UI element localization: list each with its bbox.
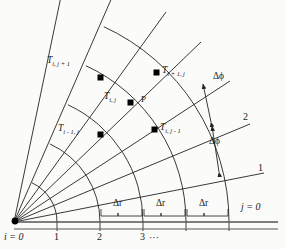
brace-delta-r-2 — [144, 209, 185, 216]
delta-phi-arrows — [203, 84, 219, 172]
label-t-iminus1-j-sub: i - 1, j — [63, 128, 78, 135]
node-dot-t-iplus1-j — [154, 70, 160, 76]
label-t-i-j-sub: i, j — [109, 96, 116, 103]
radial-label-2: 2 — [243, 112, 248, 122]
delta-r-label-2: Δr — [156, 199, 165, 209]
delta-r-label-1: Δr — [113, 199, 122, 209]
radial-line-j7 — [14, 0, 64, 222]
label-t-i-jminus1-sub: i, j - 1 — [165, 127, 180, 134]
delta-r-braces — [101, 209, 228, 216]
i-axis-ticks — [57, 222, 229, 231]
i-axis-ellipsis: ··· — [149, 233, 159, 243]
delta-phi-arrow-upper — [203, 84, 211, 122]
label-t-iminus1-j: Ti - 1, j — [58, 124, 79, 135]
label-t-iplus1-j: Ti + 1, j — [162, 66, 185, 77]
label-t-i-jplus1-sub: i, j + 1 — [52, 60, 70, 67]
brace-delta-r-1 — [101, 209, 142, 216]
delta-phi-upper-label: Δϕ — [213, 72, 224, 82]
label-t-i-jplus1: Ti, j + 1 — [47, 56, 70, 67]
node-dot-t-i-jplus1 — [98, 75, 104, 81]
origin-vertex — [12, 218, 19, 225]
j-axis-label-text: j = 0 — [241, 201, 261, 212]
i-axis-tick-label-1: 1 — [54, 232, 59, 242]
label-point-p: P — [141, 95, 146, 104]
node-dot-t-i-j — [128, 100, 134, 106]
i-axis-tick-label-2: 2 — [97, 232, 102, 242]
radial-label-1: 1 — [258, 163, 263, 173]
polar-grid-figure: Ti, j + 1 Ti + 1, j Ti, j Ti - 1, j Ti, … — [0, 0, 285, 249]
delta-phi-arrow-lower — [212, 126, 219, 172]
node-dot-t-iminus1-j — [98, 132, 104, 138]
label-t-i-j: Ti, j — [104, 92, 116, 103]
baseline-axis — [14, 222, 278, 231]
delta-phi-lower-label: Δϕ — [209, 137, 220, 147]
brace-delta-r-3 — [187, 209, 228, 216]
label-t-iplus1-j-sub: i + 1, j — [167, 70, 185, 77]
radial-line-j6 — [14, 0, 113, 222]
i-axis-tick-label-3: 3 — [140, 232, 145, 242]
label-t-i-jminus1: Ti, j - 1 — [160, 123, 181, 134]
i-axis-label-origin: i = 0 — [4, 232, 24, 242]
j-axis-label: j = 0 — [241, 202, 261, 212]
grid-nodes — [12, 70, 160, 225]
delta-r-label-3: Δr — [199, 199, 208, 209]
node-dot-t-i-jminus1 — [152, 127, 158, 133]
i-axis-label-origin-text: i = 0 — [4, 231, 24, 242]
